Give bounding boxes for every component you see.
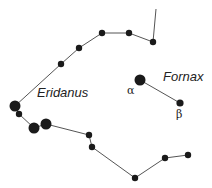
star-eridanus: [58, 61, 64, 67]
star-eridanus: [162, 155, 168, 161]
star-eridanus: [41, 119, 52, 130]
star-eridanus: [29, 123, 40, 134]
constellation-label-fornax: Fornax: [163, 69, 203, 84]
star-fornax: [135, 75, 146, 86]
constellation-diagram: Eridanus Fornax α β: [0, 0, 212, 188]
star-eridanus: [89, 144, 95, 150]
star-chart: [0, 0, 212, 188]
constellation-label-eridanus: Eridanus: [37, 85, 88, 100]
star-eridanus: [126, 30, 132, 36]
star-eridanus: [132, 175, 138, 181]
star-eridanus: [76, 45, 82, 51]
star-eridanus: [99, 30, 105, 36]
star-eridanus: [185, 152, 191, 158]
star-eridanus: [150, 39, 156, 45]
star-eridanus: [16, 111, 22, 117]
star-label-beta: β: [176, 108, 182, 121]
star-fornax: [176, 99, 183, 106]
star-eridanus: [10, 101, 21, 112]
star-eridanus: [86, 132, 92, 138]
star-label-alpha: α: [127, 84, 134, 97]
